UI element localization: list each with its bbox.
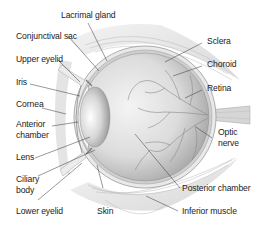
- label-ciliary-body-line1: Ciliary: [16, 174, 39, 185]
- label-anterior-chamber-line1: Anterior: [16, 119, 49, 130]
- label-inferior-muscle: Inferior muscle: [182, 206, 237, 217]
- label-lens: Lens: [16, 152, 34, 163]
- label-optic-nerve-line2: nerve: [218, 138, 239, 149]
- label-cornea: Cornea: [16, 99, 44, 110]
- label-upper-eyelid: Upper eyelid: [16, 54, 63, 65]
- label-choroid: Choroid: [207, 59, 236, 70]
- label-conjunctival-sac: Conjunctival sac: [16, 31, 77, 42]
- label-lacrimal-gland: Lacrimal gland: [61, 10, 116, 21]
- label-anterior-chamber: Anterior chamber: [16, 119, 49, 141]
- label-optic-nerve: Optic nerve: [218, 127, 239, 149]
- label-retina: Retina: [207, 83, 231, 94]
- label-lower-eyelid: Lower eyelid: [16, 206, 63, 217]
- label-anterior-chamber-line2: chamber: [16, 130, 49, 141]
- label-optic-nerve-line1: Optic: [218, 127, 239, 138]
- label-sclera: Sclera: [207, 36, 231, 47]
- label-posterior-chamber: Posterior chamber: [182, 183, 251, 194]
- label-iris: Iris: [16, 77, 27, 88]
- label-skin: Skin: [97, 206, 113, 217]
- label-ciliary-body: Ciliary body: [16, 174, 39, 196]
- label-ciliary-body-line2: body: [16, 185, 39, 196]
